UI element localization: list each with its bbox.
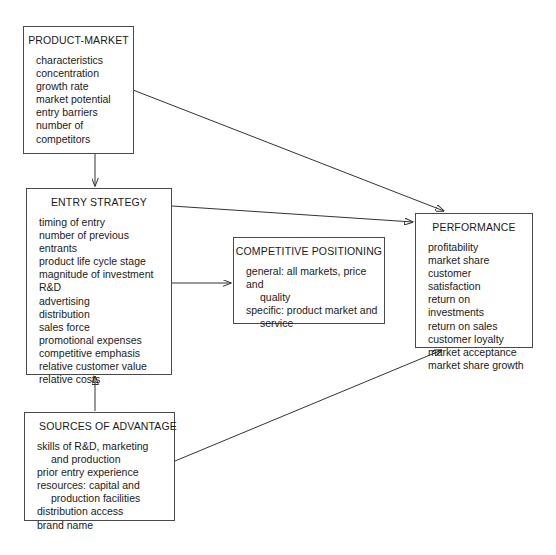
list-item: advertising [39, 295, 165, 308]
box-competitive-positioning-title: COMPETITIVE POSITIONING [234, 245, 384, 257]
box-sources-of-advantage-list: skills of R&D, marketing and production … [25, 440, 174, 532]
box-performance: PERFORMANCE profitability market share c… [415, 213, 533, 348]
box-product-market-list: characteristics concentration growth rat… [24, 54, 133, 146]
list-item: growth rate [36, 80, 127, 93]
list-item: number of previous entrants [39, 229, 165, 255]
list-item: market acceptance [428, 346, 526, 359]
list-item: relative customer value [39, 360, 165, 373]
list-item: number of [36, 119, 127, 132]
box-sources-of-advantage: SOURCES OF ADVANTAGE skills of R&D, mark… [24, 412, 175, 521]
list-item: specific: product market and [246, 304, 378, 317]
list-item: customer loyalty [428, 333, 526, 346]
list-item: brand name [37, 519, 168, 532]
list-item: competitors [36, 133, 127, 146]
diagram-canvas: PRODUCT-MARKET characteristics concentra… [0, 0, 556, 555]
list-item: resources: capital and [37, 479, 168, 492]
box-performance-list: profitability market share customer sati… [416, 241, 532, 372]
connector-sources-of-advantage-to-performance [175, 350, 442, 461]
list-item: profitability [428, 241, 526, 254]
list-item: market potential [36, 93, 127, 106]
list-item: and production [37, 453, 168, 466]
box-product-market-title: PRODUCT-MARKET [24, 34, 133, 46]
box-competitive-positioning: COMPETITIVE POSITIONING general: all mar… [233, 237, 385, 324]
list-item: promotional expenses [39, 334, 165, 347]
box-competitive-positioning-list: general: all markets, price and quality … [234, 265, 384, 330]
list-item: characteristics [36, 54, 127, 67]
connector-product-market-to-performance [133, 90, 444, 211]
list-item: product life cycle stage [39, 255, 165, 268]
list-item: prior entry experience [37, 466, 168, 479]
list-item: competitive emphasis [39, 347, 165, 360]
list-item: magnitude of investment [39, 268, 165, 281]
list-item: customer satisfaction [428, 267, 526, 293]
list-item: skills of R&D, marketing [37, 440, 168, 453]
list-item: quality [246, 291, 378, 304]
list-item: general: all markets, price and [246, 265, 378, 291]
box-entry-strategy-title: ENTRY STRATEGY [27, 196, 171, 208]
list-item: distribution [39, 308, 165, 321]
box-entry-strategy: ENTRY STRATEGY timing of entry number of… [26, 188, 172, 375]
list-item: sales force [39, 321, 165, 334]
list-item: timing of entry [39, 216, 165, 229]
box-product-market: PRODUCT-MARKET characteristics concentra… [23, 26, 134, 154]
list-item: R&D [39, 281, 165, 294]
list-item: relative costs [39, 373, 165, 386]
list-item: return on sales [428, 320, 526, 333]
list-item: service [246, 317, 378, 330]
box-sources-of-advantage-title: SOURCES OF ADVANTAGE [25, 420, 174, 432]
list-item: entry barriers [36, 106, 127, 119]
list-item: production facilities [37, 492, 168, 505]
connector-entry-strategy-to-performance [172, 206, 413, 222]
list-item: return on investments [428, 293, 526, 319]
list-item: market share growth [428, 359, 526, 372]
box-performance-title: PERFORMANCE [416, 221, 532, 233]
list-item: distribution access [37, 505, 168, 518]
list-item: concentration [36, 67, 127, 80]
box-entry-strategy-list: timing of entry number of previous entra… [27, 216, 171, 386]
list-item: market share [428, 254, 526, 267]
